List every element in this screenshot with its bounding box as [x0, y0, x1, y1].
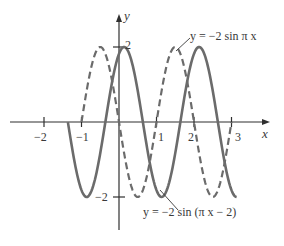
y-axis-label: y — [122, 8, 130, 23]
x-axis-arrow-icon — [262, 119, 270, 125]
x-axis-label: x — [261, 126, 268, 141]
equation-label-solid: y = −2 sin (π x − 2) — [143, 205, 236, 219]
y-axis-arrow-icon — [116, 14, 122, 22]
x-tick-label-neg1: −1 — [76, 130, 89, 144]
x-tick-label-neg2: −2 — [34, 130, 47, 144]
y-tick-label-2: 2 — [125, 38, 131, 52]
chart-plot-area: −2 −1 1 2 3 2 −2 x y y = −2 sin π x y = … — [0, 0, 284, 246]
x-tick-label-3: 3 — [235, 130, 241, 144]
x-tick-label-1: 1 — [158, 130, 164, 144]
equation-label-dashed: y = −2 sin π x — [190, 29, 257, 43]
y-tick-label-neg2: −2 — [95, 190, 108, 204]
leader-line-dashed-label — [176, 38, 190, 51]
x-tick-label-2: 2 — [188, 130, 194, 144]
